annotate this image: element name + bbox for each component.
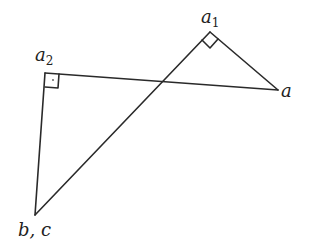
- label-bc: b, c: [18, 221, 51, 239]
- segment-a1-a: [210, 32, 278, 90]
- segment-a2-a: [45, 73, 278, 90]
- right-angle-marker-a2: [45, 74, 59, 88]
- right-angle-marker-a1: [202, 39, 218, 48]
- segment-a2-bc: [35, 73, 45, 215]
- geometry-diagram: [0, 0, 310, 241]
- label-a: a: [281, 82, 292, 100]
- label-a1: a1: [201, 8, 219, 29]
- label-a2: a2: [35, 46, 53, 67]
- segment-bc-a1: [35, 32, 210, 215]
- dot-mark-a2: [52, 79, 54, 81]
